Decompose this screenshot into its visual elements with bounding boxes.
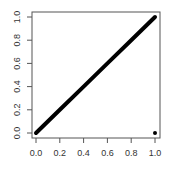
y-tick-label: 0.6 — [12, 57, 22, 70]
y-axis: 0.00.20.40.60.81.0 — [12, 11, 32, 140]
data-point — [153, 131, 157, 135]
y-tick-label: 0.8 — [12, 34, 22, 47]
x-tick-label: 0.4 — [77, 148, 90, 158]
series-layer — [36, 17, 157, 135]
y-tick-label: 0.0 — [12, 127, 22, 140]
y-tick-label: 0.4 — [12, 80, 22, 93]
x-tick-label: 0.6 — [101, 148, 114, 158]
x-tick-label: 0.0 — [30, 148, 43, 158]
series-line — [36, 17, 155, 133]
x-tick-label: 1.0 — [149, 148, 162, 158]
x-tick-label: 0.8 — [125, 148, 138, 158]
y-tick-label: 1.0 — [12, 11, 22, 24]
x-tick-label: 0.2 — [54, 148, 67, 158]
chart: 0.00.20.40.60.81.0 0.00.20.40.60.81.0 — [0, 0, 169, 170]
x-axis: 0.00.20.40.60.81.0 — [30, 138, 162, 158]
y-tick-label: 0.2 — [12, 104, 22, 117]
